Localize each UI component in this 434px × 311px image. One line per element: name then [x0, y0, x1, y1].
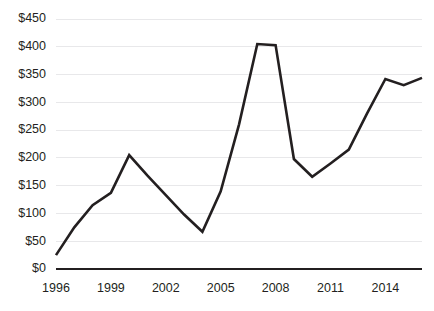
x-axis-tick-labels: 1996199920022005200820112014: [42, 281, 399, 295]
y-axis-tick-label: $100: [18, 206, 46, 220]
y-axis-tick-label: $400: [18, 39, 46, 53]
y-axis-tick-label: $250: [18, 122, 46, 136]
chart-container: $0$50$100$150$200$250$300$350$400$450 19…: [0, 0, 434, 311]
x-axis-tick-label: 1996: [42, 281, 70, 295]
data-series-line: [56, 44, 422, 255]
x-axis-tick-label: 2002: [152, 281, 180, 295]
x-axis-tick-label: 2008: [262, 281, 290, 295]
gridlines: [56, 19, 422, 241]
y-axis-tick-label: $300: [18, 95, 46, 109]
y-axis-tick-label: $0: [32, 261, 46, 275]
y-axis-tick-label: $200: [18, 150, 46, 164]
y-axis-tick-label: $150: [18, 178, 46, 192]
x-axis-tick-label: 2014: [371, 281, 399, 295]
x-axis-tick-label: 2011: [317, 281, 344, 295]
y-axis-tick-label: $50: [25, 234, 46, 248]
x-axis-tick-label: 1999: [97, 281, 125, 295]
y-axis-tick-labels: $0$50$100$150$200$250$300$350$400$450: [18, 11, 46, 275]
y-axis-tick-label: $450: [18, 11, 46, 25]
y-axis-tick-label: $350: [18, 67, 46, 81]
x-axis-tick-label: 2005: [207, 281, 235, 295]
line-chart: $0$50$100$150$200$250$300$350$400$450 19…: [0, 0, 434, 311]
